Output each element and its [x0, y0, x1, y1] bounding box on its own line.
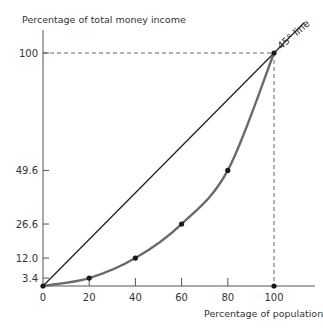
data-point — [40, 283, 45, 288]
data-point — [179, 221, 184, 226]
x-tick-label: 40 — [129, 292, 142, 303]
45-degree-line — [43, 23, 304, 286]
data-point — [87, 275, 92, 280]
y-tick-label: 3.4 — [22, 273, 38, 284]
y-tick-label: 49.6 — [16, 165, 38, 176]
data-point — [133, 255, 138, 260]
x-tick-label: 100 — [264, 292, 283, 303]
x-tick-label: 20 — [83, 292, 96, 303]
y-axis-title: Percentage of total money income — [22, 14, 186, 25]
y-tick-label: 100 — [19, 48, 38, 59]
diag-label: 45° line — [275, 18, 312, 52]
y-tick-label: 12.0 — [16, 253, 38, 264]
x-tick-label: 0 — [40, 292, 46, 303]
data-point-x100 — [271, 283, 276, 288]
x-tick-label: 80 — [221, 292, 234, 303]
data-point — [271, 50, 276, 55]
x-axis-title: Percentage of population — [204, 308, 323, 319]
data-point — [225, 168, 230, 173]
y-ticks: 3.412.026.649.6100 — [16, 48, 49, 284]
x-tick-label: 60 — [175, 292, 188, 303]
y-tick-label: 26.6 — [16, 219, 38, 230]
